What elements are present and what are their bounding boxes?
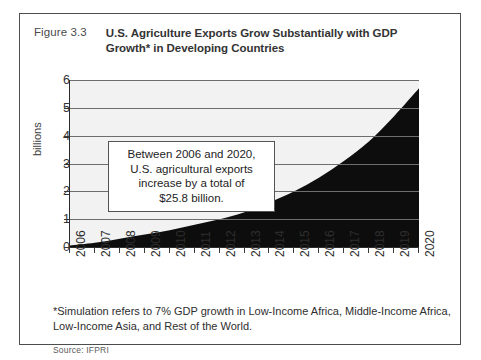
callout-line-3: increase by a total of [113,176,270,191]
x-tick-label: 2008 [124,230,138,257]
y-tick-mark [64,108,69,109]
x-tick-label: 2011 [199,231,213,257]
x-tick-label: 2013 [249,230,263,257]
x-tick-label: 2007 [99,230,113,257]
x-tick-label: 2010 [174,230,188,257]
x-tick-mark [293,247,294,253]
figure-header: Figure 3.3 U.S. Agriculture Exports Grow… [34,26,444,56]
callout-annotation: Between 2006 and 2020, U.S. agricultural… [108,141,275,212]
x-tick-label: 2019 [398,230,412,257]
y-tick-mark [64,164,69,165]
x-tick-label: 2015 [298,230,312,257]
x-tick-mark [169,247,170,253]
chart-container: billions 0123456 20062007200820092010201… [20,60,462,275]
x-tick-label: 2017 [348,230,362,257]
x-tick-mark [144,247,145,253]
x-tick-label: 2012 [224,230,238,257]
x-tick-label: 2016 [323,230,337,257]
callout-line-4: $25.8 billion. [113,191,270,206]
callout-line-1: Between 2006 and 2020, [113,147,270,162]
x-tick-mark [94,247,95,253]
y-tick-mark [64,136,69,137]
y-tick-mark [64,219,69,220]
figure-number: Figure 3.3 [34,26,87,38]
callout-line-2: U.S. agricultural exports [113,162,270,177]
y-tick-mark [64,191,69,192]
x-tick-label: 2006 [74,230,88,257]
footnote-text: *Simulation refers to 7% GDP growth in L… [53,304,453,333]
x-tick-mark [268,247,269,253]
x-tick-mark [393,247,394,253]
x-tick-label: 2018 [373,230,387,257]
x-tick-mark [318,247,319,253]
y-tick-label: 6 [48,73,70,87]
gridline [70,136,419,137]
x-tick-mark [194,247,195,253]
y-axis-label: billions [31,122,43,156]
source-text: Source: IFPRI [53,345,453,355]
x-tick-mark [244,247,245,253]
x-tick-mark [219,247,220,253]
notes-section: *Simulation refers to 7% GDP growth in L… [53,304,453,355]
x-tick-mark [69,247,70,253]
x-tick-mark [368,247,369,253]
x-tick-label: 2020 [423,230,437,257]
gridline [70,108,419,109]
page-title: U.S. Agriculture Exports Grow Substantia… [106,26,444,56]
figure-frame: Figure 3.3 U.S. Agriculture Exports Grow… [19,13,461,345]
x-tick-mark [418,247,419,253]
x-tick-mark [343,247,344,253]
y-tick-mark [64,247,69,248]
x-tick-mark [119,247,120,253]
x-axis-ticks: 2006200720082009201020112012201320142015… [69,247,419,255]
x-tick-label: 2009 [149,230,163,257]
gridline [70,219,419,220]
x-tick-label: 2014 [273,230,287,257]
